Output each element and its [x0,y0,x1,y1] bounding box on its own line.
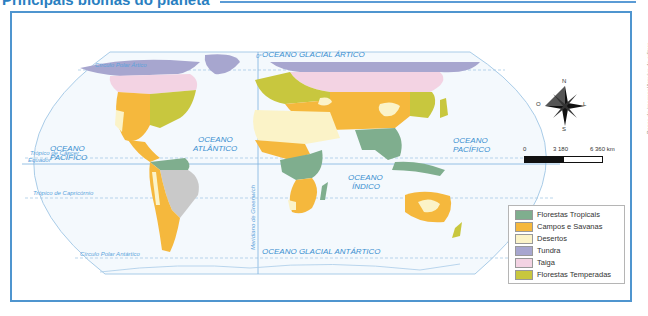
label-equator: Equador [28,157,52,163]
ocean-antarctic: OCEANO GLACIAL ANTÁRTICO [262,247,381,256]
legend-swatch [515,258,533,268]
legend-swatch [515,270,533,280]
legend-item-grasslands-savannas: Campos e Savanas [515,221,602,232]
na-taiga [110,74,197,94]
compass-rose: N O L S [540,78,590,138]
compass-west: O [536,101,541,107]
legend-item-deserts: Desertos [515,233,567,244]
scale-bar: 0 3 180 6 360 km [523,146,638,166]
label-greenwich: Meridiano de Greenwich [250,184,256,250]
legend-item-taiga: Taiga [515,257,555,268]
scale-start: 0 [523,146,526,152]
compass-star-icon [545,86,585,126]
scale-bar-white [563,156,603,163]
legend-item-tropical-forests: Florestas Tropicais [515,209,600,220]
legend-item-temperate-forests: Florestas Temperadas [515,269,611,280]
label-tropic-cancer: Trópico de Câncer [30,150,80,156]
scale-end: 6 360 km [590,146,615,152]
ocean-pacific-east-1: OCEANO [453,136,488,145]
label-zero-degree: 0° [256,53,262,59]
eurasia-tundra [270,62,480,72]
legend-swatch [515,234,533,244]
label-arctic-circle: Círculo Polar Ártico [95,62,147,68]
sahara-arabia-desert [253,110,340,145]
scale-mid: 3 180 [553,146,568,152]
legend-swatch [515,210,533,220]
legend-swatch [515,222,533,232]
scale-bar-black [524,156,564,163]
ocean-atlantic-2: ATLÂNTICO [192,144,237,153]
ocean-pacific-east-2: PACÍFICO [453,145,490,154]
compass-north: N [562,78,566,84]
legend: Florestas Tropicais Campos e Savanas Des… [508,205,625,284]
label-antarctic-circle: Círculo Polar Antártico [80,251,140,257]
legend-item-tundra: Tundra [515,245,561,256]
compass-south: S [562,126,566,132]
label-tropic-capricorn: Trópico de Capricórnio [33,190,94,196]
legend-swatch [515,246,533,256]
ocean-indian-1: OCEANO [348,173,383,182]
ocean-arctic: OCEANO GLACIAL ÁRTICO [262,50,365,59]
ocean-atlantic-1: OCEANO [198,135,233,144]
ocean-indian-2: ÍNDICO [352,182,380,191]
